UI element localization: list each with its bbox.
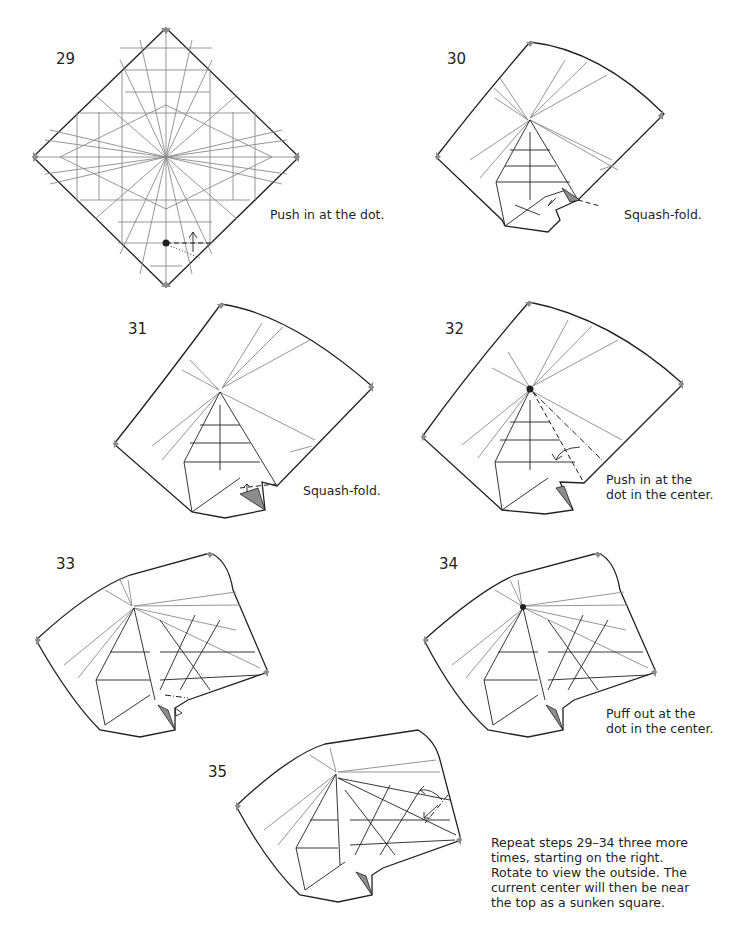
figure-step-33 [36,553,268,737]
figure-step-29 [33,28,299,287]
diagram-canvas [0,0,733,933]
figure-step-32 [422,302,683,514]
arrow-icon [175,708,182,716]
figure-step-34 [424,553,656,737]
puff-dot-icon [520,604,526,610]
figure-step-30 [436,42,664,232]
figure-step-35 [236,730,461,902]
push-dot-icon [527,386,534,393]
figure-step-31 [114,304,373,518]
